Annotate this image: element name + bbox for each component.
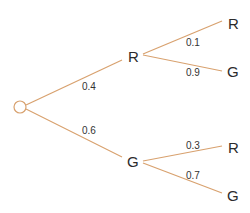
- branch-root-to-G: [26, 109, 122, 157]
- node-RG: G: [227, 63, 239, 80]
- branch-G-to-G: [143, 163, 222, 193]
- root-node: [14, 101, 26, 113]
- prob-label-R: 0.4: [82, 81, 96, 92]
- branch-R-to-R: [143, 21, 222, 54]
- branch-root-to-R: [26, 60, 122, 105]
- branch-R-to-G: [143, 55, 222, 71]
- node-G: G: [127, 153, 139, 170]
- prob-label-RG: 0.9: [186, 67, 200, 78]
- node-RR: R: [228, 15, 239, 32]
- probability-tree-diagram: 0.4 0.6 R G 0.1 0.9 R G 0.3 0.7 R G: [0, 0, 250, 213]
- branch-G-to-R: [143, 146, 222, 161]
- prob-label-GR: 0.3: [186, 140, 200, 151]
- prob-label-RR: 0.1: [186, 37, 200, 48]
- prob-label-G: 0.6: [82, 125, 96, 136]
- prob-label-GG: 0.7: [186, 170, 200, 181]
- node-GG: G: [227, 187, 239, 204]
- node-GR: R: [228, 139, 239, 156]
- node-R: R: [128, 48, 139, 65]
